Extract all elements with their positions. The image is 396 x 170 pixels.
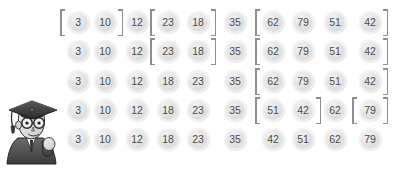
value-token: 3 — [67, 128, 89, 150]
value-token: 10 — [94, 70, 116, 92]
value-token: 79 — [292, 11, 314, 33]
group-bracket-open — [150, 38, 157, 65]
value-token: 12 — [126, 70, 148, 92]
value-token: 12 — [126, 11, 148, 33]
group-bracket-close — [314, 97, 321, 124]
value-token: 35 — [224, 128, 246, 150]
group-bracket-open — [255, 38, 262, 65]
value-token: 10 — [94, 40, 116, 62]
value-token: 12 — [126, 128, 148, 150]
value-token: 18 — [187, 11, 209, 33]
value-token: 35 — [224, 11, 246, 33]
value-token: 51 — [324, 40, 346, 62]
group-bracket-close — [381, 68, 388, 95]
value-token: 62 — [262, 70, 284, 92]
value-token: 23 — [187, 99, 209, 121]
value-token: 18 — [157, 99, 179, 121]
value-token: 23 — [157, 40, 179, 62]
group-bracket-open — [60, 9, 67, 36]
value-token: 42 — [359, 70, 381, 92]
value-token: 51 — [324, 70, 346, 92]
value-token: 12 — [126, 40, 148, 62]
value-token: 79 — [359, 128, 381, 150]
value-token: 62 — [262, 40, 284, 62]
group-bracket-open — [255, 9, 262, 36]
value-token: 18 — [157, 70, 179, 92]
value-token: 42 — [292, 99, 314, 121]
sequence-row: 3101218233542516279 — [0, 128, 396, 152]
value-token: 10 — [94, 11, 116, 33]
sorting-steps-figure: 3101223183562795142310122318356279514231… — [0, 0, 396, 170]
value-token: 62 — [324, 128, 346, 150]
sequence-rows: 3101223183562795142310122318356279514231… — [0, 0, 396, 170]
value-token: 42 — [359, 40, 381, 62]
group-bracket-open — [352, 97, 359, 124]
value-token: 18 — [187, 40, 209, 62]
value-token: 12 — [126, 99, 148, 121]
group-bracket-close — [381, 9, 388, 36]
value-token: 3 — [67, 99, 89, 121]
group-bracket-open — [255, 68, 262, 95]
sequence-row: 3101223183562795142 — [0, 11, 396, 35]
value-token: 10 — [94, 128, 116, 150]
value-token: 42 — [262, 128, 284, 150]
value-token: 79 — [292, 40, 314, 62]
sequence-row: 3101223183562795142 — [0, 40, 396, 64]
group-bracket-close — [381, 38, 388, 65]
value-token: 35 — [224, 99, 246, 121]
value-token: 23 — [187, 70, 209, 92]
group-bracket-open — [255, 97, 262, 124]
value-token: 51 — [262, 99, 284, 121]
value-token: 79 — [292, 70, 314, 92]
sequence-row: 3101218233562795142 — [0, 70, 396, 94]
value-token: 10 — [94, 99, 116, 121]
value-token: 35 — [224, 40, 246, 62]
value-token: 79 — [359, 99, 381, 121]
value-token: 18 — [157, 128, 179, 150]
value-token: 51 — [292, 128, 314, 150]
value-token: 42 — [359, 11, 381, 33]
value-token: 35 — [224, 70, 246, 92]
value-token: 62 — [324, 99, 346, 121]
value-token: 23 — [157, 11, 179, 33]
group-bracket-close — [381, 97, 388, 124]
value-token: 23 — [187, 128, 209, 150]
group-bracket-open — [150, 9, 157, 36]
value-token: 62 — [262, 11, 284, 33]
value-token: 3 — [67, 40, 89, 62]
value-token: 3 — [67, 11, 89, 33]
sequence-row: 3101218233551426279 — [0, 99, 396, 123]
group-bracket-close — [209, 9, 216, 36]
value-token: 51 — [324, 11, 346, 33]
group-bracket-close — [209, 38, 216, 65]
value-token: 3 — [67, 70, 89, 92]
group-bracket-close — [116, 9, 123, 36]
